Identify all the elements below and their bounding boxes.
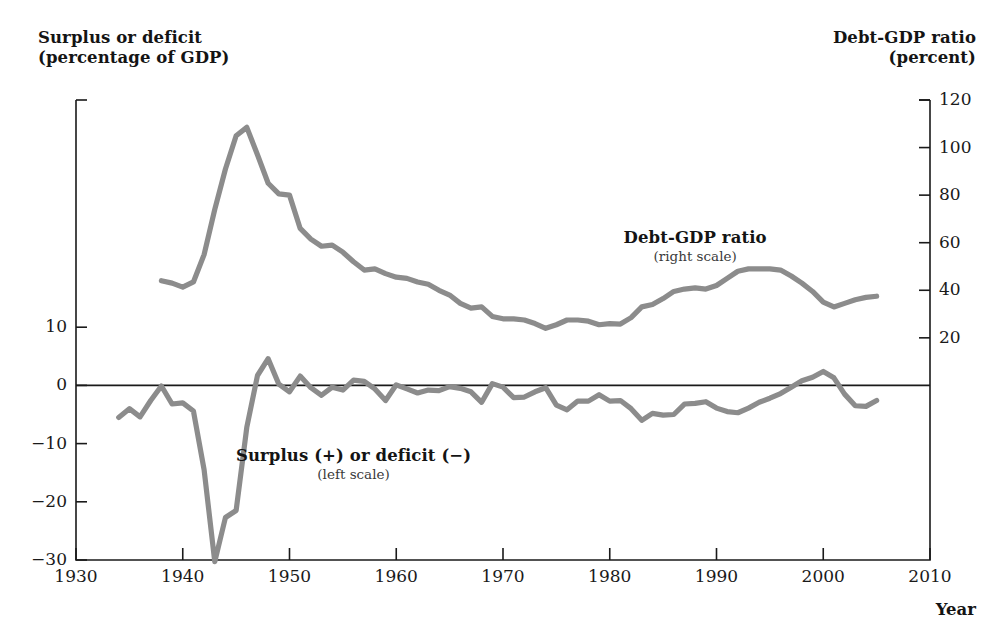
plot-canvas bbox=[0, 0, 994, 632]
x-tick-7: 2000 bbox=[783, 566, 863, 586]
deficit-series-annotation: Surplus (+) or deficit (−) (left scale) bbox=[229, 446, 479, 482]
right-tick-4: 40 bbox=[939, 279, 961, 299]
x-tick-8: 2010 bbox=[890, 566, 970, 586]
right-tick-3: 60 bbox=[939, 232, 961, 252]
right-axis-title: Debt-GDP ratio (percent) bbox=[833, 28, 976, 68]
right-axis-title-line1: Debt-GDP ratio bbox=[833, 28, 976, 47]
right-tick-1: 100 bbox=[939, 137, 971, 157]
x-tick-4: 1970 bbox=[463, 566, 543, 586]
right-tick-0: 120 bbox=[939, 89, 971, 109]
x-tick-2: 1950 bbox=[250, 566, 330, 586]
debt-series-annotation: Debt-GDP ratio (right scale) bbox=[605, 228, 785, 264]
left-tick-3: −20 bbox=[0, 491, 67, 511]
debt-annotation-label: Debt-GDP ratio bbox=[605, 228, 785, 247]
right-tick-2: 80 bbox=[939, 184, 961, 204]
right-axis-title-line2: (percent) bbox=[889, 48, 976, 67]
x-tick-6: 1990 bbox=[677, 566, 757, 586]
left-axis-title-line2: (percentage of GDP) bbox=[38, 48, 230, 67]
deficit-annotation-scale-note: (left scale) bbox=[229, 466, 479, 482]
x-tick-5: 1980 bbox=[570, 566, 650, 586]
deficit-annotation-label: Surplus (+) or deficit (−) bbox=[229, 446, 479, 465]
left-axis-title: Surplus or deficit (percentage of GDP) bbox=[38, 28, 230, 68]
x-axis-name: Year bbox=[936, 600, 976, 619]
x-tick-1: 1940 bbox=[143, 566, 223, 586]
left-tick-1: 0 bbox=[0, 374, 67, 394]
right-tick-5: 20 bbox=[939, 327, 961, 347]
debt-annotation-scale-note: (right scale) bbox=[605, 248, 785, 264]
series-group bbox=[119, 127, 877, 561]
left-tick-2: −10 bbox=[0, 433, 67, 453]
left-tick-0: 10 bbox=[0, 316, 67, 336]
x-tick-3: 1960 bbox=[356, 566, 436, 586]
x-tick-0: 1930 bbox=[36, 566, 116, 586]
chart-figure: Surplus or deficit (percentage of GDP) D… bbox=[0, 0, 994, 632]
left-axis-title-line1: Surplus or deficit bbox=[38, 28, 202, 47]
